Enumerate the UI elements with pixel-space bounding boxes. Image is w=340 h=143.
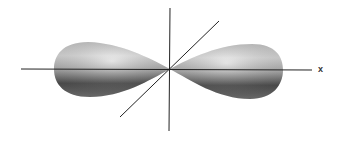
x-axis-label: x: [318, 64, 323, 74]
p-orbital-diagram: [0, 0, 340, 143]
